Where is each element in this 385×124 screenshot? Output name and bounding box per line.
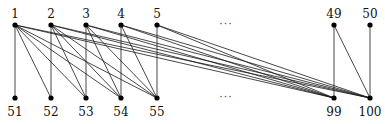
- edge-4-99: [121, 25, 334, 98]
- node-label-52: 52: [43, 105, 58, 119]
- node-53: [83, 95, 88, 100]
- node-label-4: 4: [117, 7, 125, 21]
- ellipsis-top: ···: [219, 18, 233, 31]
- edge-3-55: [86, 25, 157, 98]
- ellipsis-bottom: ···: [219, 91, 233, 104]
- edge-3-54: [86, 25, 121, 98]
- edge-3-99: [86, 25, 334, 98]
- node-label-5: 5: [153, 7, 161, 21]
- edge-1-99: [15, 25, 334, 98]
- node-label-1: 1: [11, 7, 19, 21]
- node-99: [331, 95, 336, 100]
- node-label-54: 54: [113, 105, 129, 119]
- node-label-99: 99: [326, 105, 341, 119]
- node-label-2: 2: [47, 7, 55, 21]
- node-50: [367, 22, 372, 27]
- edge-1-53: [15, 25, 86, 98]
- node-label-51: 51: [7, 105, 22, 119]
- edge-1-52: [15, 25, 51, 98]
- node-54: [118, 95, 123, 100]
- node-2: [48, 22, 53, 27]
- node-49: [331, 22, 336, 27]
- node-52: [48, 95, 53, 100]
- node-55: [154, 95, 159, 100]
- edge-2-55: [51, 25, 157, 98]
- edge-5-99: [157, 25, 334, 98]
- node-label-49: 49: [326, 7, 341, 21]
- node-label-100: 100: [359, 105, 382, 119]
- node-1: [12, 22, 17, 27]
- edge-49-100: [334, 25, 370, 98]
- labels-layer: 123454950515253545599100: [7, 7, 381, 119]
- node-label-53: 53: [78, 105, 93, 119]
- node-label-55: 55: [149, 105, 164, 119]
- node-51: [12, 95, 17, 100]
- edge-2-99: [51, 25, 334, 98]
- edge-4-55: [121, 25, 157, 98]
- edge-5-100: [157, 25, 370, 98]
- node-4: [118, 22, 123, 27]
- node-label-50: 50: [362, 7, 377, 21]
- node-100: [367, 95, 372, 100]
- node-3: [83, 22, 88, 27]
- edges-layer: [15, 25, 370, 98]
- node-5: [154, 22, 159, 27]
- node-label-3: 3: [82, 7, 90, 21]
- bipartite-graph-diagram: 123454950515253545599100 ······: [0, 0, 385, 124]
